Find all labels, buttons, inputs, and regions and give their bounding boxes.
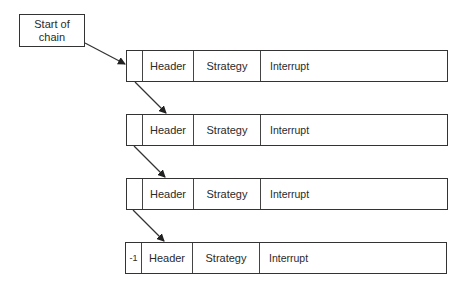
arrow-record-1-to-2 [135,82,166,113]
interrupt-cell: Interrupt [261,51,447,81]
header-cell: Header [142,243,193,273]
interrupt-cell: Interrupt [260,243,446,273]
chain-record-3: Header Strategy Interrupt [126,178,448,210]
interrupt-cell: Interrupt [261,115,447,145]
arrow-record-2-to-3 [134,146,165,177]
arrow-start-to-record-1 [85,43,125,64]
arrow-record-3-to-4 [133,210,164,241]
start-label-line2: chain [39,31,65,44]
header-cell: Header [143,115,194,145]
pointer-cell [127,51,143,81]
strategy-cell: Strategy [194,115,261,145]
chain-record-1: Header Strategy Interrupt [126,50,448,82]
pointer-cell [127,179,143,209]
strategy-cell: Strategy [193,243,260,273]
start-of-chain-box: Start of chain [19,14,85,47]
start-label-line1: Start of [34,18,69,31]
header-cell: Header [143,179,194,209]
interrupt-cell: Interrupt [261,179,447,209]
pointer-cell-end-marker: -1 [126,243,142,273]
strategy-cell: Strategy [194,51,261,81]
chain-record-2: Header Strategy Interrupt [126,114,448,146]
pointer-cell [127,115,143,145]
chain-record-4: -1 Header Strategy Interrupt [125,242,447,274]
header-cell: Header [143,51,194,81]
strategy-cell: Strategy [194,179,261,209]
